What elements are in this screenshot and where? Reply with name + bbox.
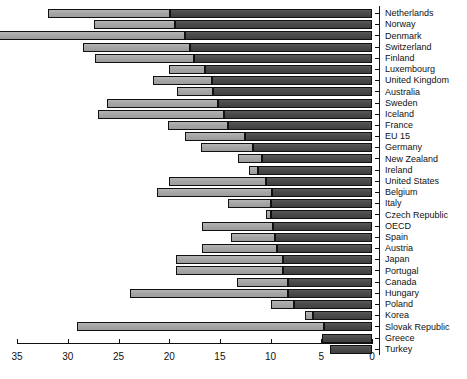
value-tick bbox=[169, 339, 170, 344]
category-label: France bbox=[385, 121, 413, 130]
category-tick bbox=[375, 91, 380, 92]
bar-segment-dark bbox=[277, 244, 372, 253]
bar-segment-light bbox=[201, 143, 254, 152]
value-tick-label: 25 bbox=[104, 351, 134, 362]
bar-segment-dark bbox=[288, 289, 372, 298]
bar-segment-dark bbox=[185, 31, 372, 40]
value-tick-label: 5 bbox=[306, 351, 336, 362]
category-label: Norway bbox=[385, 20, 416, 29]
category-label: Slovak Republic bbox=[385, 323, 450, 332]
bar-segment-light bbox=[169, 65, 204, 74]
category-label: Italy bbox=[385, 199, 402, 208]
category-label: Portugal bbox=[385, 267, 419, 276]
value-tick bbox=[17, 339, 18, 344]
bar-segment-dark bbox=[205, 65, 372, 74]
bar-segment-dark bbox=[322, 334, 372, 343]
category-tick bbox=[375, 270, 380, 271]
bar-segment-light bbox=[169, 177, 265, 186]
category-tick bbox=[375, 226, 380, 227]
category-label: United States bbox=[385, 177, 439, 186]
category-tick bbox=[375, 203, 380, 204]
bar-segment-dark bbox=[190, 43, 372, 52]
category-label: OECD bbox=[385, 222, 411, 231]
category-tick bbox=[375, 349, 380, 350]
bar-segment-dark bbox=[313, 311, 372, 320]
category-tick bbox=[375, 214, 380, 215]
category-label: EU 15 bbox=[385, 132, 410, 141]
category-tick bbox=[375, 248, 380, 249]
category-label: Australia bbox=[385, 88, 420, 97]
bar-segment-light bbox=[0, 31, 185, 40]
category-label: Greece bbox=[385, 334, 415, 343]
category-tick bbox=[375, 181, 380, 182]
category-tick bbox=[375, 80, 380, 81]
category-tick bbox=[375, 259, 380, 260]
bar-segment-light bbox=[176, 266, 282, 275]
bar-segment-light bbox=[249, 166, 258, 175]
bar-segment-dark bbox=[194, 54, 372, 63]
category-label: New Zealand bbox=[385, 155, 438, 164]
bar-segment-dark bbox=[275, 233, 372, 242]
value-tick bbox=[271, 339, 272, 344]
bar-segment-light bbox=[157, 188, 272, 197]
category-label: United Kingdom bbox=[385, 76, 449, 85]
bar-segment-dark bbox=[272, 188, 372, 197]
bar-segment-dark bbox=[218, 99, 372, 108]
value-axis-line bbox=[17, 343, 373, 344]
value-tick-label: 30 bbox=[53, 351, 83, 362]
value-tick-label: 15 bbox=[205, 351, 235, 362]
category-label: Austria bbox=[385, 244, 413, 253]
category-tick bbox=[375, 58, 380, 59]
bar-segment-dark bbox=[288, 278, 372, 287]
chart-container: NetherlandsNorwayDenmarkSwitzerlandFinla… bbox=[0, 0, 467, 379]
category-label: Japan bbox=[385, 255, 410, 264]
bar-segment-dark bbox=[258, 166, 372, 175]
bar-segment-dark bbox=[224, 110, 372, 119]
category-tick bbox=[375, 35, 380, 36]
bar-segment-dark bbox=[245, 132, 372, 141]
bar-segment-light bbox=[231, 233, 275, 242]
bar-segment-dark bbox=[283, 266, 372, 275]
bar-segment-dark bbox=[273, 222, 372, 231]
bar-segment-dark bbox=[228, 121, 372, 130]
value-tick bbox=[220, 339, 221, 344]
category-label: Luxembourg bbox=[385, 65, 435, 74]
category-label: Sweden bbox=[385, 99, 418, 108]
category-tick bbox=[375, 69, 380, 70]
bar-segment-dark bbox=[266, 177, 372, 186]
bar-segment-dark bbox=[213, 87, 372, 96]
category-label: Canada bbox=[385, 278, 417, 287]
bar-segment-dark bbox=[271, 210, 372, 219]
category-label: Iceland bbox=[385, 110, 414, 119]
bar-segment-dark bbox=[212, 76, 372, 85]
bar-segment-light bbox=[177, 87, 212, 96]
category-label: Denmark bbox=[385, 32, 422, 41]
bar-segment-dark bbox=[175, 20, 372, 29]
bar-segment-light bbox=[95, 54, 193, 63]
category-tick bbox=[375, 158, 380, 159]
category-label: Netherlands bbox=[385, 9, 434, 18]
bar-segment-light bbox=[77, 322, 324, 331]
bar-segment-light bbox=[176, 255, 282, 264]
bar-segment-dark bbox=[324, 322, 372, 331]
category-tick bbox=[375, 192, 380, 193]
category-label: Spain bbox=[385, 233, 408, 242]
value-tick-label: 10 bbox=[256, 351, 286, 362]
category-tick bbox=[375, 237, 380, 238]
bar-segment-light bbox=[305, 311, 313, 320]
bar-segment-light bbox=[130, 289, 288, 298]
bar-segment-light bbox=[271, 300, 294, 309]
category-label: Poland bbox=[385, 300, 413, 309]
category-tick bbox=[375, 24, 380, 25]
category-label: Ireland bbox=[385, 166, 413, 175]
value-tick bbox=[372, 339, 373, 344]
bar-segment-dark bbox=[271, 199, 372, 208]
category-label: Belgium bbox=[385, 188, 418, 197]
category-label: Czech Republic bbox=[385, 211, 448, 220]
bar-segment-light bbox=[202, 244, 277, 253]
category-label: Switzerland bbox=[385, 43, 432, 52]
bar-segment-light bbox=[237, 278, 288, 287]
bar-segment-light bbox=[48, 9, 171, 18]
bar-segment-light bbox=[202, 222, 273, 231]
category-label: Finland bbox=[385, 54, 415, 63]
